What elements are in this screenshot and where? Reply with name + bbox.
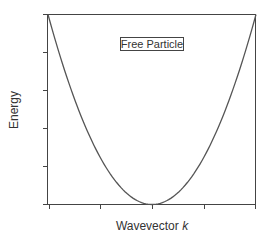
y-axis-label: Energy bbox=[7, 91, 21, 129]
x-axis-ticks bbox=[50, 205, 256, 210]
y-axis-ticks bbox=[43, 15, 48, 205]
x-axis-label-var: k bbox=[182, 219, 189, 233]
annotation-text: Free Particle bbox=[121, 38, 183, 50]
x-axis-label: Wavevector k bbox=[116, 219, 189, 233]
chart: Free Particle Energy Wavevector k bbox=[0, 0, 265, 245]
annotation-box: Free Particle bbox=[121, 38, 184, 51]
x-axis-label-text: Wavevector bbox=[116, 219, 179, 233]
